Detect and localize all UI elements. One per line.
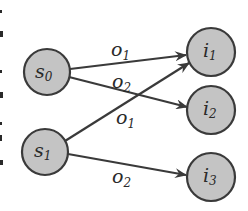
graph-diagram: o1 o2 o1 o2 s0 s1 i1 i2 i3 <box>0 0 248 211</box>
edge-label-s1-i3: o2 <box>112 165 131 190</box>
node-i3: i3 <box>187 153 235 201</box>
node-i2: i2 <box>187 86 235 134</box>
edge-label-s0-i2: o2 <box>112 70 131 95</box>
edge-s1-i3 <box>68 154 186 175</box>
edge-label-s0-i1: o1 <box>111 38 130 63</box>
node-i1: i1 <box>187 28 235 76</box>
node-s1: s1 <box>22 129 68 175</box>
edge-label-s1-i1: o1 <box>116 106 135 131</box>
margin-text-fragments <box>0 10 3 165</box>
node-s0: s0 <box>24 49 70 95</box>
